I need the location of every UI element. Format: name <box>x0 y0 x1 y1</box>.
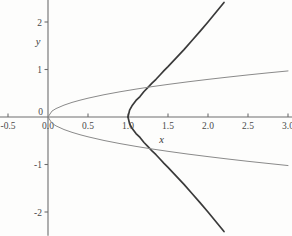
y-tick-label: -2 <box>34 208 42 218</box>
y-tick-label: 1 <box>37 65 42 75</box>
axes-group <box>0 0 292 236</box>
x-tick-label: 2.0 <box>202 121 214 131</box>
x-tick-label-zero: 0.0 <box>42 121 54 131</box>
x-tick-label: 0.5 <box>82 121 94 131</box>
origin-tick-label: 0 <box>38 107 43 117</box>
curve-cubic-cusp-upper <box>128 2 224 117</box>
x-axis-label: x <box>158 134 164 145</box>
x-tick-label: 1.5 <box>162 121 174 131</box>
y-axis-label: y <box>35 36 41 47</box>
chart-svg: -0.50.51.01.52.02.53.00.0 21-1-2 x y 0 <box>0 0 292 236</box>
x-tick-label: 3.0 <box>282 121 292 131</box>
curve-cubic-cusp-lower <box>128 117 224 232</box>
curve-sqrt-upper <box>48 71 288 117</box>
x-tick-label: 2.5 <box>242 121 254 131</box>
y-tick-label: 2 <box>37 18 42 28</box>
y-tick-label: -1 <box>34 160 42 170</box>
plot-canvas: -0.50.51.01.52.02.53.00.0 21-1-2 x y 0 <box>0 0 292 236</box>
x-axis-ticks: -0.50.51.01.52.02.53.00.0 <box>0 114 292 132</box>
x-tick-label: -0.5 <box>0 121 15 131</box>
